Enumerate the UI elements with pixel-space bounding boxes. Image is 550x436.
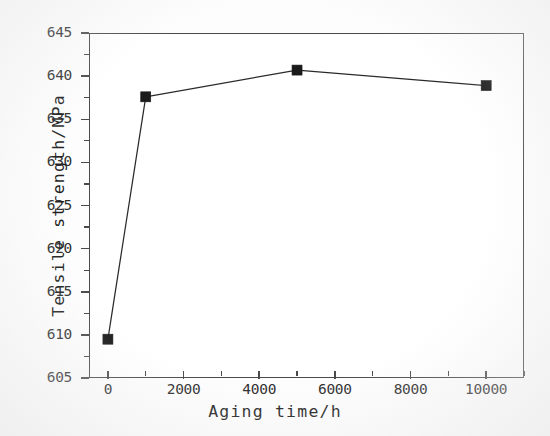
x-axis-title: Aging time/h: [0, 402, 550, 421]
y-axis-title: Tensile strength/MPa: [49, 56, 68, 356]
series-layer: [0, 0, 550, 436]
chart-figure: 605610615620625630635640645 020004000600…: [0, 0, 550, 436]
series-markers-tensile-strength: [103, 65, 491, 344]
series-line-tensile-strength: [108, 70, 486, 339]
data-point-marker: [292, 65, 302, 75]
data-point-marker: [103, 334, 113, 344]
data-point-marker: [141, 92, 151, 102]
data-point-marker: [481, 81, 491, 91]
